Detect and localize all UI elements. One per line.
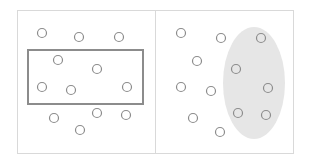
data-point: [38, 83, 47, 92]
selection-diagram: [0, 0, 310, 161]
data-point: [50, 114, 59, 123]
ellipse-region: [223, 27, 285, 139]
data-point: [193, 57, 202, 66]
data-point: [38, 29, 47, 38]
data-point: [93, 65, 102, 74]
data-point: [76, 126, 85, 135]
rectangle-region: [28, 50, 143, 104]
data-point: [177, 29, 186, 38]
data-point: [217, 34, 226, 43]
data-point: [122, 111, 131, 120]
data-point: [177, 83, 186, 92]
data-point: [54, 56, 63, 65]
data-point: [123, 83, 132, 92]
data-point: [75, 33, 84, 42]
data-point: [93, 109, 102, 118]
data-point: [67, 86, 76, 95]
data-point: [207, 87, 216, 96]
data-point: [115, 33, 124, 42]
data-point: [216, 128, 225, 137]
data-point: [189, 114, 198, 123]
